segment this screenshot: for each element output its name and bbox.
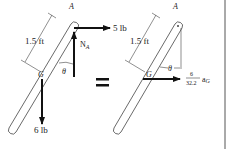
- kinetic-diagram: 1.5 ft A θ G 6 32.2 aG: [113, 2, 210, 134]
- equals-sign: [96, 78, 109, 81]
- accel-label: aG: [202, 75, 211, 84]
- point-g-label: G: [146, 70, 152, 79]
- length-label: 1.5 ft: [25, 36, 44, 46]
- point-g-label: G: [38, 70, 44, 79]
- free-body-diagram: 1.5 ft A 5 lb NA θ G 6 lb: [8, 2, 127, 135]
- normal-label: NA: [80, 40, 90, 50]
- frac-num: 6: [190, 71, 193, 77]
- length-label: 1.5 ft: [130, 36, 149, 46]
- point-a-label: A: [68, 2, 74, 11]
- frac-den: 32.2: [186, 80, 197, 86]
- force-5lb-label: 5 lb: [113, 23, 127, 33]
- point-a-label: A: [172, 2, 178, 11]
- weight-label: 6 lb: [34, 125, 48, 135]
- theta-label: θ: [62, 67, 66, 76]
- diagram: 1.5 ft A 5 lb NA θ G 6 lb 1.5 ft A θ G 6…: [0, 0, 227, 149]
- theta-label: θ: [168, 64, 172, 73]
